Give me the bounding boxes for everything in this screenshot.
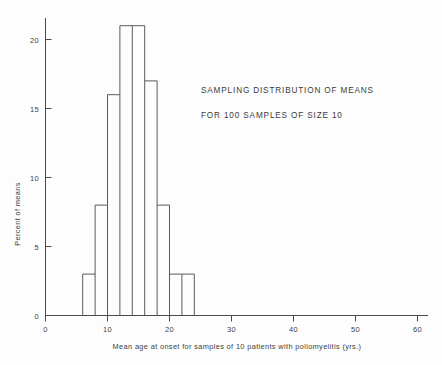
x-axis-title: Mean age at onset for samples of 10 pati… [113,342,362,351]
y-tick-label-20: 20 [30,36,39,45]
histogram-figure: 0 5 10 15 20 0 10 20 30 40 50 60 Mean ag… [0,0,442,365]
x-tick-label-30: 30 [227,325,236,334]
x-tick-label-50: 50 [351,325,360,334]
x-tick-label-10: 10 [103,325,112,334]
y-tick-label-15: 15 [30,105,39,114]
x-tick-label-60: 60 [413,325,422,334]
y-tick-marks [46,40,52,316]
annotation-line-2: FOR 100 SAMPLES OF SIZE 10 [201,111,343,120]
histogram-outline [83,26,195,316]
chart-canvas: 0 5 10 15 20 0 10 20 30 40 50 60 Mean ag… [0,0,442,365]
x-tick-label-20: 20 [165,325,174,334]
x-tick-label-0: 0 [43,325,47,334]
y-tick-label-5: 5 [35,243,39,252]
y-tick-label-10: 10 [30,174,39,183]
annotation-line-1: SAMPLING DISTRIBUTION OF MEANS [201,86,374,95]
x-tick-label-40: 40 [289,325,298,334]
x-tick-marks [46,316,418,322]
y-axis-title: Percent of means [13,182,22,246]
y-tick-label-0: 0 [35,312,39,321]
